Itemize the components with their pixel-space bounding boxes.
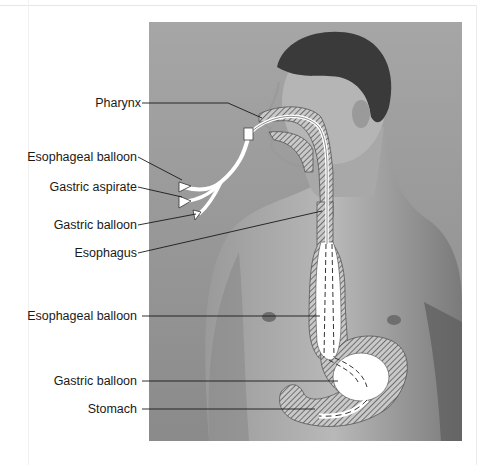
page-border-top xyxy=(0,5,476,6)
label-stomach: Stomach xyxy=(88,402,137,416)
label-esophagus: Esophagus xyxy=(74,246,137,260)
label-esophageal-balloon: Esophageal balloon xyxy=(27,309,137,323)
label-gastric-balloon: Gastric balloon xyxy=(54,374,137,388)
label-gastric-balloon-port: Gastric balloon xyxy=(54,218,137,232)
page-border-right xyxy=(476,5,477,465)
label-pharynx: Pharynx xyxy=(95,96,141,110)
page-border-left xyxy=(28,0,29,465)
torso-photograph xyxy=(149,22,462,441)
label-gastric-aspirate-port: Gastric aspirate xyxy=(49,180,137,194)
label-esophageal-balloon-port: Esophageal balloon xyxy=(27,150,137,164)
